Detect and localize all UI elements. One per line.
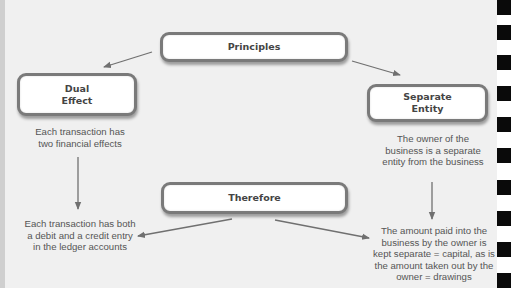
text-line: Each transaction has both (10, 218, 150, 230)
binder-square (497, 148, 511, 163)
separate-entity-result: The amount paid into the business by the… (370, 225, 498, 283)
node-therefore: Therefore (161, 182, 348, 214)
text-line: business by the owner is (370, 237, 498, 249)
node-separate-entity-line2: Entity (403, 103, 452, 115)
node-principles-label: Principles (228, 41, 281, 53)
binder-square (497, 117, 511, 132)
text-line: the amount taken out by the (370, 260, 498, 272)
binder-square (497, 211, 511, 226)
arrow-therefore-to-left-result (138, 219, 232, 236)
node-principles: Principles (160, 32, 348, 62)
node-separate-entity-line1: Separate (403, 91, 452, 103)
binder-square (497, 25, 511, 40)
text-line: entity from the business (366, 156, 500, 168)
binder-square (497, 0, 511, 15)
dual-effect-description: Each transaction has two financial effec… (20, 126, 140, 149)
node-dual-effect-line1: Dual (62, 83, 93, 95)
text-line: Each transaction has (20, 126, 140, 138)
text-line: two financial effects (20, 138, 140, 150)
binder-square (497, 242, 511, 257)
text-line: business is a separate (366, 145, 500, 157)
text-line: in the ledger accounts (10, 241, 150, 253)
dual-effect-result: Each transaction has both a debit and a … (10, 218, 150, 253)
separate-entity-description: The owner of the business is a separate … (366, 133, 500, 168)
node-therefore-label: Therefore (228, 192, 281, 204)
text-line: kept separate = capital, as is (370, 248, 498, 260)
arrow-therefore-to-right-result (275, 220, 369, 238)
node-dual-effect-line2: Effect (62, 95, 93, 107)
binder-square (497, 180, 511, 195)
binder-square (497, 55, 511, 70)
binder-square (497, 273, 511, 288)
binder-square (497, 86, 511, 101)
text-line: owner = drawings (370, 271, 498, 283)
text-line: a debit and a credit entry (10, 230, 150, 242)
text-line: The amount paid into the (370, 225, 498, 237)
node-dual-effect: Dual Effect (17, 73, 137, 116)
text-line: The owner of the (366, 133, 500, 145)
node-separate-entity: Separate Entity (367, 84, 488, 122)
arrow-principles-to-separate-entity (352, 61, 400, 75)
arrow-principles-to-dual-effect (104, 52, 152, 67)
